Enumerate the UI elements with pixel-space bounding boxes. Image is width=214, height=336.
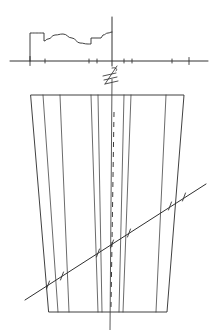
lane-line-2	[60, 95, 69, 312]
technical-drawing-canvas	[0, 0, 214, 336]
diagonal-section-line	[25, 184, 206, 300]
lane-line-6	[123, 95, 131, 312]
lane-line-1	[43, 95, 58, 312]
profile-diagram	[10, 17, 208, 66]
plan-view	[25, 79, 206, 330]
profile-curve	[30, 32, 112, 61]
lane-line-3	[91, 95, 98, 312]
centerline-mark-icon	[103, 66, 118, 84]
longitudinal-line-group	[43, 95, 166, 312]
lane-line-5	[119, 95, 124, 312]
lane-line-7	[156, 95, 166, 312]
lane-line-4	[98, 95, 102, 312]
drawing-surface	[0, 0, 214, 336]
